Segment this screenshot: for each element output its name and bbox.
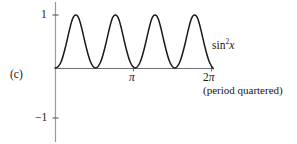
figure-caption: (period quartered) (203, 85, 283, 96)
x-axis-tick-label-pi: π (129, 72, 135, 84)
curve-sin-squared-x (55, 15, 213, 68)
curve-label-variable: x (229, 39, 234, 51)
curve-label-sin-squared-x: sin2x (212, 40, 234, 52)
y-axis-tick-label-negative-one: −1 (35, 112, 47, 124)
part-label: (c) (10, 69, 23, 81)
y-axis-tick-label-one: 1 (41, 9, 47, 21)
curve-label-function: sin (212, 39, 225, 51)
x-axis-tick-label-two-pi: 2π (203, 72, 215, 84)
pi-glyph: π (209, 71, 215, 83)
figure-panel-c: (c) 1 −1 π 2π sin2x (period quartered) (0, 0, 297, 144)
